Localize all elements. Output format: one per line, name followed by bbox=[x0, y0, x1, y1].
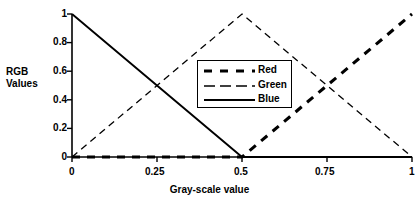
y-tick-label-08: 0.8 bbox=[53, 36, 67, 47]
y-axis-title: RGB Values bbox=[6, 66, 58, 90]
legend-swatch-red bbox=[203, 63, 256, 79]
x-tick-label-025: 0.25 bbox=[145, 166, 164, 177]
x-tick-label-1: 1 bbox=[409, 166, 415, 177]
x-tick-label-0: 0 bbox=[69, 166, 75, 177]
legend-label-red: Red bbox=[258, 64, 277, 75]
x-tick-label-075: 0.75 bbox=[315, 166, 334, 177]
x-tick-label-05: 0.5 bbox=[234, 166, 248, 177]
legend-swatch-blue bbox=[203, 92, 256, 108]
y-tick-label-0: 0 bbox=[61, 151, 67, 162]
chart-figure: 1 0.8 0.6 0.4 0.2 0 0 0.25 0.5 0.75 1 RG… bbox=[0, 0, 419, 205]
x-axis-title: Gray-scale value bbox=[0, 184, 419, 195]
y-axis-title-line1: RGB bbox=[6, 66, 58, 78]
legend: Red Green Blue bbox=[197, 60, 292, 108]
y-tick-label-02: 0.2 bbox=[53, 122, 67, 133]
legend-label-blue: Blue bbox=[258, 93, 280, 104]
y-tick-label-04: 0.4 bbox=[53, 94, 67, 105]
legend-label-green: Green bbox=[258, 79, 287, 90]
legend-entry-blue: Blue bbox=[198, 92, 293, 108]
y-axis-title-line2: Values bbox=[6, 78, 58, 90]
y-tick-label-1: 1 bbox=[61, 8, 67, 19]
legend-entry-red: Red bbox=[198, 63, 293, 79]
